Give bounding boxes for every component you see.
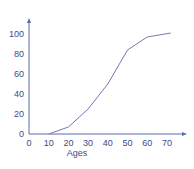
x-axis-arrow-icon — [182, 132, 187, 136]
y-axis-arrow-icon — [27, 18, 31, 23]
x-tick-label: 10 — [44, 138, 54, 148]
x-tick-label: 20 — [63, 138, 73, 148]
y-tick-label: 100 — [9, 29, 24, 39]
x-axis-label: Ages — [67, 148, 88, 158]
x-tick-label: 30 — [83, 138, 93, 148]
x-axis-ticks: 010203040506070 — [26, 138, 171, 148]
y-axis-ticks: 020406080100 — [9, 29, 24, 139]
axes — [27, 18, 187, 136]
y-tick-label: 80 — [14, 49, 24, 59]
x-tick-label: 40 — [103, 138, 113, 148]
data-line — [49, 33, 171, 134]
x-tick-label: 70 — [162, 138, 172, 148]
y-tick-label: 20 — [14, 109, 24, 119]
x-tick-label: 50 — [122, 138, 132, 148]
y-tick-label: 60 — [14, 69, 24, 79]
y-tick-label: 40 — [14, 89, 24, 99]
line-chart: 020406080100 010203040506070 Ages — [0, 0, 194, 169]
x-tick-label: 0 — [26, 138, 31, 148]
y-tick-label: 0 — [19, 129, 24, 139]
x-tick-label: 60 — [142, 138, 152, 148]
